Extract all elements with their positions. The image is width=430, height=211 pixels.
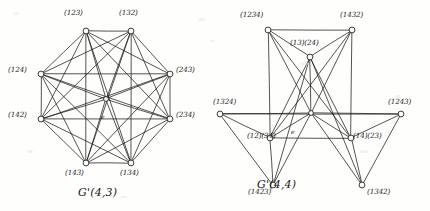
node-123[interactable] xyxy=(83,28,89,34)
graph-edge xyxy=(310,57,362,185)
node-132[interactable] xyxy=(128,28,134,34)
graph-edge xyxy=(41,99,106,119)
node-143[interactable] xyxy=(83,160,89,166)
node-234[interactable] xyxy=(167,116,173,122)
node-243-label: (243) xyxy=(176,66,195,73)
node-1342[interactable] xyxy=(359,182,365,188)
graph-edge xyxy=(270,138,351,139)
node-1342-label: (1342) xyxy=(367,188,390,195)
node-1324[interactable] xyxy=(217,111,223,117)
graph-drawing-left xyxy=(0,0,215,211)
caption-left: G'(4,3) xyxy=(78,186,117,199)
node-132-label: (132) xyxy=(119,9,138,16)
paper-speck xyxy=(360,150,368,153)
graph-edge xyxy=(311,113,351,138)
graph-edge xyxy=(131,119,170,163)
center-node-label-left: e xyxy=(101,113,105,120)
node-134[interactable] xyxy=(128,160,134,166)
graph-edge xyxy=(131,31,170,119)
node-e[interactable] xyxy=(309,111,314,116)
node-12-34-label: (12)(34) xyxy=(247,132,276,139)
node-243[interactable] xyxy=(167,71,173,77)
node-134-label: (134) xyxy=(120,169,139,176)
node-123-label: (123) xyxy=(64,9,83,16)
node-142[interactable] xyxy=(38,116,44,122)
graph-edge xyxy=(362,114,401,185)
node-1432-label: (1432) xyxy=(340,11,363,18)
graph-edge xyxy=(351,30,352,138)
center-node-label-right: e xyxy=(291,128,295,135)
graph-edge xyxy=(106,99,131,163)
paper-speck xyxy=(300,62,309,65)
graph-edge xyxy=(41,31,86,74)
graph-edge xyxy=(86,74,170,163)
node-142-label: (142) xyxy=(8,111,27,118)
node-143-label: (143) xyxy=(65,169,84,176)
graph-edge xyxy=(220,114,273,185)
node-1243-label: (1243) xyxy=(388,98,411,105)
graph-edge xyxy=(86,99,106,163)
paper-speck xyxy=(395,95,401,98)
graph-panel-left: G'(4,3) e (123)(132)(124)(243)(142)(234)… xyxy=(0,0,215,211)
node-234-label: (234) xyxy=(176,111,195,118)
node-1234-label: (1234) xyxy=(240,11,263,18)
paper-speck xyxy=(14,12,19,15)
graph-edge xyxy=(268,30,270,138)
graph-edge xyxy=(310,57,351,138)
graph-edge xyxy=(131,31,170,74)
paper-speck xyxy=(198,18,205,21)
node-1234[interactable] xyxy=(265,27,271,33)
graph-edge xyxy=(273,113,311,185)
node-124-label: (124) xyxy=(8,66,27,73)
paper-speck xyxy=(27,150,33,153)
paper-speck xyxy=(210,40,215,42)
node-1243[interactable] xyxy=(398,111,404,117)
paper-speck xyxy=(120,196,127,198)
graph-panel-right: G'(4,4) e (1234)(1432)(13)(24)(1324)(124… xyxy=(215,0,430,211)
node-1432[interactable] xyxy=(349,27,355,33)
graph-edge xyxy=(41,74,106,99)
node-1324-label: (1324) xyxy=(213,98,236,105)
graph-edge xyxy=(41,119,86,163)
node-13-24-label: (13)(24) xyxy=(290,39,319,46)
node-e[interactable] xyxy=(104,97,109,102)
node-1423-label: (1423) xyxy=(248,188,271,195)
node-14-23-label: (14)(23) xyxy=(353,132,382,139)
node-13-24[interactable] xyxy=(307,54,313,60)
node-124[interactable] xyxy=(38,71,44,77)
figure-page: G'(4,3) e (123)(132)(124)(243)(142)(234)… xyxy=(0,0,430,211)
